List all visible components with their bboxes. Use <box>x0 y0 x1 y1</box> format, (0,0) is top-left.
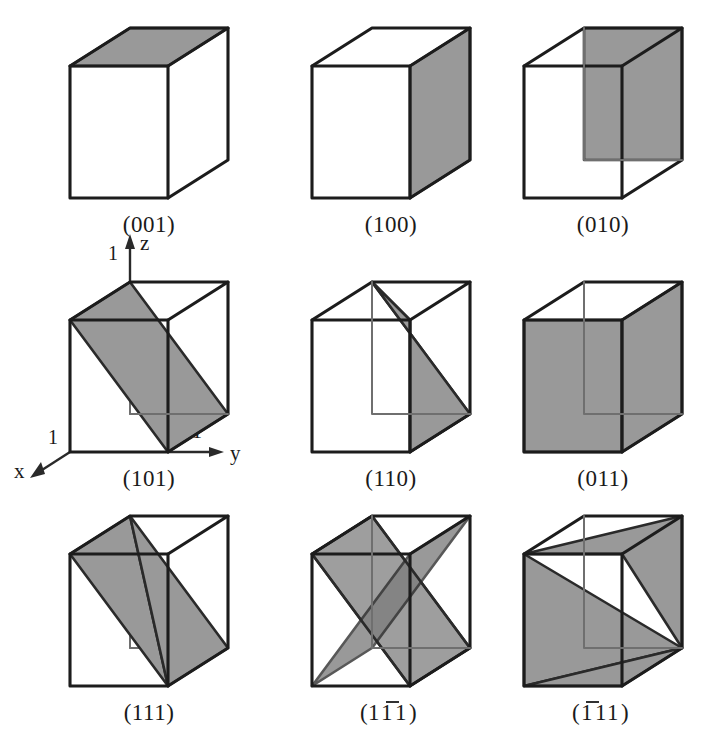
z-axis-label: z <box>140 231 149 255</box>
cube-front-face <box>70 66 168 198</box>
miller-indices-figure: (001) (100) (010) z 1 y 1 <box>0 0 726 737</box>
plane-110-body <box>372 282 470 452</box>
cell-label-111: (111) <box>124 700 175 725</box>
x-axis-arrowhead <box>30 462 45 478</box>
z-axis-tick-1: 1 <box>108 242 118 264</box>
plane-001 <box>70 28 228 66</box>
label-digit-1-overbar: 1 <box>581 700 593 725</box>
y-axis-arrowhead <box>209 447 224 457</box>
cell-label-010: (010) <box>577 212 629 237</box>
x-axis-label: x <box>14 459 25 483</box>
unit-cell-110: (110) <box>312 282 470 491</box>
cell-label-100: (100) <box>365 212 417 237</box>
label-digit-2: 1 <box>595 700 607 725</box>
label-paren-open: ( <box>360 700 368 725</box>
cell-label-101: (101) <box>123 466 175 491</box>
unit-cell-1b11: ( 1 1 1 ) <box>312 516 470 725</box>
unit-cell-101: (101) <box>70 282 228 491</box>
unit-cell-111: (111) <box>70 516 228 725</box>
plane-100 <box>410 28 470 198</box>
unit-cell-001: (001) <box>70 28 228 237</box>
cube-front-face <box>312 66 410 198</box>
cell-label-110: (110) <box>365 466 416 491</box>
label-digit-3: 1 <box>395 700 407 725</box>
plane-101 <box>70 282 228 452</box>
plane-011-right <box>622 282 682 452</box>
unit-cell-011: (011) <box>524 282 682 491</box>
y-axis-label: y <box>230 441 241 465</box>
label-digit-3: 1 <box>607 700 619 725</box>
unit-cell-b111: ( 1 1 1 ) <box>524 516 682 725</box>
label-paren-open: ( <box>572 700 580 725</box>
cell-label-b111: ( 1 1 1 ) <box>572 700 629 725</box>
cell-label-1b11: ( 1 1 1 ) <box>360 700 417 725</box>
cube-front-face <box>312 320 410 452</box>
x-axis-tick-1: 1 <box>48 426 58 448</box>
plane-011-front <box>524 320 622 452</box>
x-axis-line <box>42 452 70 470</box>
label-paren-close: ) <box>409 700 417 725</box>
plane-010 <box>584 28 682 160</box>
label-digit-2-overbar: 1 <box>381 700 393 725</box>
unit-cell-010: (010) <box>524 28 682 237</box>
label-digit-1: 1 <box>368 700 380 725</box>
cell-label-011: (011) <box>577 466 628 491</box>
unit-cell-100: (100) <box>312 28 470 237</box>
label-paren-close: ) <box>621 700 629 725</box>
